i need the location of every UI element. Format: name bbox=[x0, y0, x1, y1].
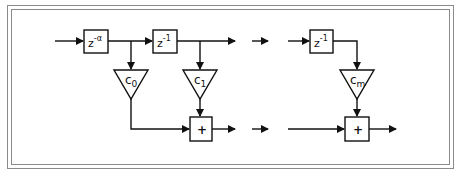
adder-1-symbol: + bbox=[197, 123, 207, 137]
block-diagram: z-α z-1 z-1 c0 c1 cm + + bbox=[0, 0, 463, 176]
adder-m-symbol: + bbox=[353, 123, 363, 137]
c0-to-adder bbox=[131, 99, 189, 129]
tap-down-cm bbox=[333, 41, 357, 69]
